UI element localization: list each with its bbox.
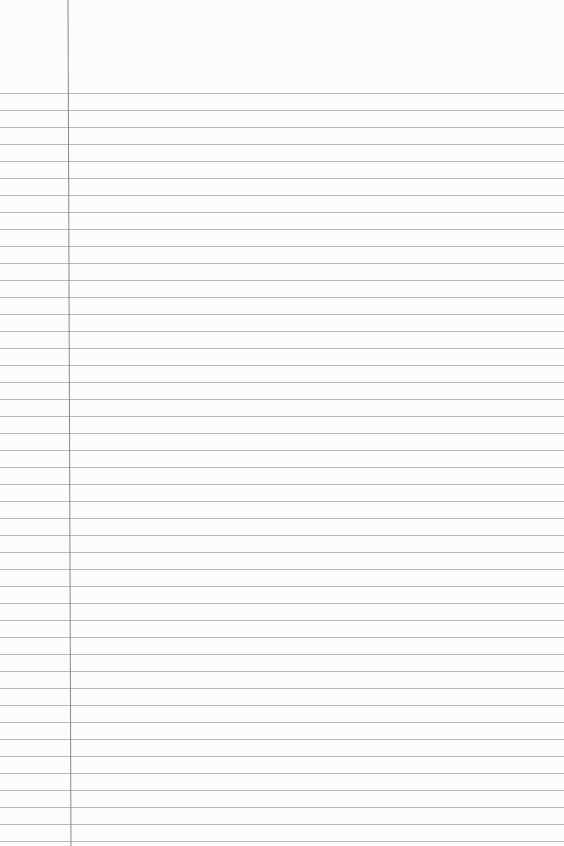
ruled-line (0, 433, 564, 434)
ruled-line (0, 637, 564, 638)
ruled-line (0, 348, 564, 349)
ruled-line (0, 535, 564, 536)
notebook-page (0, 0, 564, 846)
ruled-line (0, 195, 564, 196)
ruled-line (0, 127, 564, 128)
ruled-line (0, 93, 564, 94)
ruled-line (0, 280, 564, 281)
ruled-line (0, 212, 564, 213)
ruled-line (0, 756, 564, 757)
ruled-line (0, 603, 564, 604)
ruled-line (0, 467, 564, 468)
ruled-line (0, 416, 564, 417)
ruled-line (0, 671, 564, 672)
ruled-line (0, 688, 564, 689)
ruled-line (0, 484, 564, 485)
ruled-line (0, 790, 564, 791)
ruled-line (0, 824, 564, 825)
ruled-line (0, 620, 564, 621)
ruled-line (0, 807, 564, 808)
ruled-line (0, 382, 564, 383)
ruled-line (0, 586, 564, 587)
ruled-line (0, 552, 564, 553)
ruled-line (0, 450, 564, 451)
ruled-line (0, 722, 564, 723)
ruled-line (0, 229, 564, 230)
ruled-line (0, 331, 564, 332)
ruled-line (0, 773, 564, 774)
ruled-line (0, 144, 564, 145)
ruled-line (0, 314, 564, 315)
ruled-line (0, 178, 564, 179)
ruled-line (0, 705, 564, 706)
ruled-line (0, 263, 564, 264)
ruled-line (0, 110, 564, 111)
ruled-line (0, 161, 564, 162)
ruled-line (0, 654, 564, 655)
ruled-line (0, 246, 564, 247)
ruled-line (0, 501, 564, 502)
ruled-line (0, 518, 564, 519)
ruled-line (0, 841, 564, 842)
ruled-line (0, 569, 564, 570)
ruled-line (0, 399, 564, 400)
ruled-line (0, 365, 564, 366)
ruled-line (0, 297, 564, 298)
ruled-line (0, 739, 564, 740)
